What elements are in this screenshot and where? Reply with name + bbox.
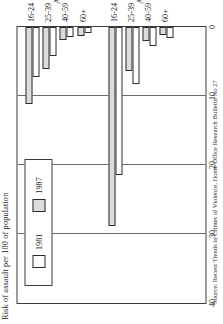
legend-swatch-1981: [32, 255, 45, 268]
bar-1987-16-24: [108, 27, 115, 226]
bar-1987-40-59: [59, 27, 66, 40]
category-label-16-24: 16-24: [109, 3, 118, 22]
chart-rotated-canvas: Risk of assault per 100 of population 40…: [0, 0, 223, 324]
bar-1987-60plus: [159, 27, 166, 35]
group-label: Age (women): [52, 0, 61, 4]
axis-tick-label: 0: [207, 25, 216, 29]
category-label-25-39: 25-39: [44, 3, 53, 22]
bar-1987-16-24: [25, 27, 32, 104]
chart-inner: Risk of assault per 100 of population 40…: [0, 0, 223, 324]
bar-1987-40-59: [142, 27, 149, 41]
bar-1981-16-24: [32, 27, 39, 77]
bar-1981-40-59: [149, 27, 156, 46]
group-label: Age (men): [135, 0, 144, 4]
bar-1987-25-39: [42, 27, 49, 69]
bar-1981-25-39: [49, 27, 56, 56]
bar-1981-40-59: [66, 27, 73, 37]
legend-swatch-1987: [32, 199, 45, 212]
category-label-40-59: 40-59: [61, 3, 70, 22]
chart-figure: Risk of assault per 100 of population 40…: [0, 0, 223, 324]
legend-label-1987: 1987: [34, 177, 43, 193]
category-label-40-59: 40-59: [144, 3, 153, 22]
bar-1981-60plus: [166, 27, 173, 38]
bar-1981-25-39: [132, 27, 139, 84]
category-label-25-39: 25-39: [127, 3, 136, 22]
category-label-16-24: 16-24: [27, 3, 36, 22]
bar-1987-60plus: [77, 27, 84, 36]
category-label-60plus: 60+: [161, 9, 170, 22]
bar-1981-60plus: [84, 27, 91, 33]
bar-1981-16-24: [115, 27, 122, 175]
bar-1987-25-39: [125, 27, 132, 71]
category-label-60plus: 60+: [78, 9, 87, 22]
legend: 1981 1987: [24, 159, 52, 286]
legend-item-1981: 1981: [32, 234, 45, 268]
legend-item-1987: 1987: [32, 177, 45, 211]
value-axis-title: Risk of assault per 100 of population: [0, 97, 14, 320]
source-note: Source: Recent Trends in Crimes of Viole…: [210, 80, 217, 304]
legend-label-1981: 1981: [34, 234, 43, 250]
